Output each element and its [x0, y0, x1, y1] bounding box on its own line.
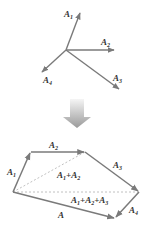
label-edge-a1: A1 [6, 167, 16, 178]
bottom-figure: A1 A2 A3 A4 A1+A2 A1+A2+A3 A [6, 140, 139, 220]
label-a4: A4 [42, 75, 52, 86]
down-arrow-icon [63, 99, 91, 128]
vector-addition-diagram: A1 A2 A3 A4 A1 A2 A3 A4 A1+A2 A1+A2+A3 A [0, 0, 153, 230]
label-a1: A1 [63, 9, 73, 20]
vector-a3-arrow [66, 50, 119, 89]
label-resultant-a: A [57, 210, 64, 220]
edge-a3-arrow [85, 152, 138, 191]
label-partial-sum-2: A1+A2+A3 [70, 195, 108, 206]
label-edge-a3: A3 [112, 160, 122, 171]
label-edge-a2: A2 [48, 140, 58, 151]
vector-a4-arrow [42, 50, 66, 72]
label-edge-a4: A4 [128, 205, 138, 216]
label-a3: A3 [112, 73, 122, 84]
label-a2: A2 [100, 37, 110, 48]
top-figure: A1 A2 A3 A4 [42, 9, 122, 89]
label-partial-sum-1: A1+A2 [56, 170, 80, 181]
